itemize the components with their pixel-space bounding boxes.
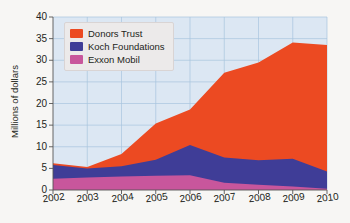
y-tick-label: 15 (21, 120, 47, 130)
legend-item: Exxon Mobil (70, 53, 165, 66)
y-tick-label: 25 (21, 77, 47, 87)
y-axis-title: Millions of dollars (9, 42, 20, 162)
legend-item-label: Donors Trust (88, 28, 142, 39)
legend-color-swatch (70, 42, 83, 51)
legend-color-swatch (70, 29, 83, 38)
x-tick-label: 2002 (42, 191, 65, 205)
x-tick-label: 2009 (282, 191, 305, 205)
stacked-area-chart (0, 0, 350, 223)
legend-item-label: Exxon Mobil (88, 54, 140, 65)
y-tick-label: 10 (21, 142, 47, 152)
x-axis-tick-labels: 200220032004200520062007200820092010 (53, 192, 327, 216)
chart-container: 0510152025303540 20022003200420052006200… (0, 0, 350, 223)
x-tick-label: 2008 (247, 191, 270, 205)
legend-item: Donors Trust (70, 27, 165, 40)
x-tick-label: 2003 (76, 191, 99, 205)
legend-item: Koch Foundations (70, 40, 165, 53)
legend-item-label: Koch Foundations (88, 41, 165, 52)
y-tick-label: 40 (21, 12, 47, 22)
x-tick-label: 2007 (213, 191, 236, 205)
y-tick-label: 35 (21, 34, 47, 44)
x-tick-label: 2004 (110, 191, 133, 205)
x-tick-label: 2006 (179, 191, 202, 205)
y-axis-tick-labels: 0510152025303540 (19, 17, 47, 190)
y-tick-label: 5 (21, 163, 47, 173)
y-tick-label: 30 (21, 55, 47, 65)
y-tick-label: 20 (21, 99, 47, 109)
chart-legend: Donors TrustKoch FoundationsExxon Mobil (64, 22, 174, 71)
x-tick-label: 2005 (145, 191, 168, 205)
legend-color-swatch (70, 55, 83, 64)
